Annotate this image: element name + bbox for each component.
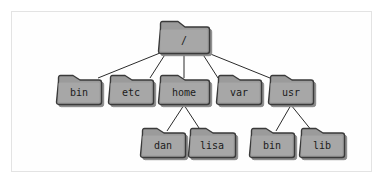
folder-node-usr[interactable]: usr bbox=[268, 75, 314, 105]
folder-label: bin bbox=[249, 141, 295, 151]
folder-node-usr-lib[interactable]: lib bbox=[299, 128, 345, 158]
folder-node-var[interactable]: var bbox=[216, 75, 262, 105]
folder-label: / bbox=[158, 36, 210, 46]
folder-label: lisa bbox=[188, 141, 236, 151]
folder-node-dan[interactable]: dan bbox=[140, 128, 186, 158]
folder-label: home bbox=[158, 88, 210, 98]
folder-label: lib bbox=[299, 141, 345, 151]
folder-node-usr-bin[interactable]: bin bbox=[249, 128, 295, 158]
folder-label: usr bbox=[268, 88, 314, 98]
folder-label: etc bbox=[108, 88, 154, 98]
folder-label: var bbox=[216, 88, 262, 98]
filesystem-tree-diagram: /binetchomevarusrdanlisabinlib bbox=[0, 0, 385, 185]
folder-label: bin bbox=[56, 88, 102, 98]
folder-node-etc[interactable]: etc bbox=[108, 75, 154, 105]
folder-node-bin[interactable]: bin bbox=[56, 75, 102, 105]
folder-node-home[interactable]: home bbox=[158, 75, 210, 105]
folder-label: dan bbox=[140, 141, 186, 151]
folder-node-lisa[interactable]: lisa bbox=[188, 128, 236, 158]
folder-node-root[interactable]: / bbox=[158, 21, 210, 54]
